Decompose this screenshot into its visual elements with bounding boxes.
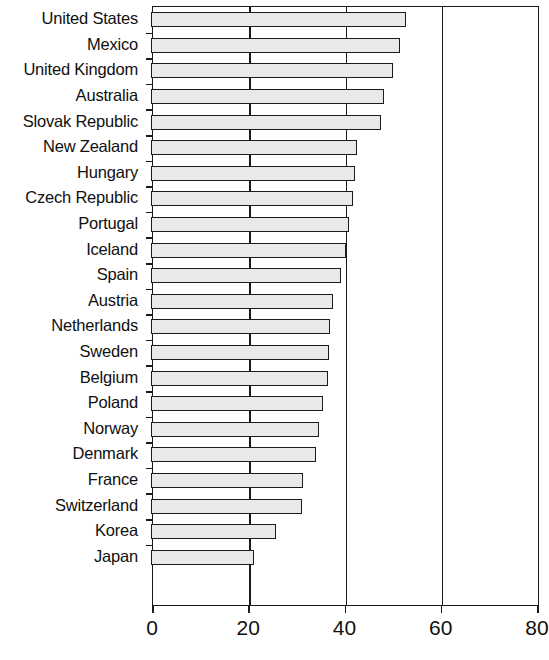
bar-row	[153, 493, 538, 519]
bar	[151, 499, 302, 514]
x-axis-tick-label: 20	[237, 616, 260, 640]
category-label: Australia	[0, 83, 146, 109]
category-tick	[146, 212, 153, 214]
bar	[151, 396, 323, 411]
category-tick	[146, 417, 153, 419]
x-axis-tick-label: 0	[146, 616, 158, 640]
bar	[151, 473, 303, 488]
bar	[151, 38, 400, 53]
category-label: Mexico	[0, 32, 146, 58]
bar-row	[153, 212, 538, 238]
x-axis-tick-marks	[152, 605, 537, 615]
bar	[151, 447, 316, 462]
bar	[151, 345, 329, 360]
x-axis-tick	[152, 605, 154, 613]
category-tick	[146, 135, 153, 137]
category-label: Hungary	[0, 160, 146, 186]
x-axis-tick-label: 40	[333, 616, 356, 640]
bar	[151, 166, 355, 181]
bar-row	[153, 442, 538, 468]
category-label: New Zealand	[0, 134, 146, 160]
category-tick	[146, 289, 153, 291]
plot-area	[152, 6, 539, 606]
category-tick	[146, 58, 153, 60]
bar	[151, 12, 406, 27]
bar-row	[153, 391, 538, 417]
bar	[151, 422, 319, 437]
bar-row	[153, 365, 538, 391]
x-axis-tick-label: 60	[429, 616, 452, 640]
bar	[151, 115, 381, 130]
bars-layer	[153, 7, 538, 605]
category-label: Poland	[0, 390, 146, 416]
category-tick	[146, 442, 153, 444]
category-tick	[146, 340, 153, 342]
category-label: Belgium	[0, 364, 146, 390]
bar-row	[153, 237, 538, 263]
bar	[151, 140, 357, 155]
category-label: Portugal	[0, 211, 146, 237]
bar-row	[153, 58, 538, 84]
x-axis-tick	[441, 605, 443, 613]
bar	[151, 191, 353, 206]
category-tick	[146, 263, 153, 265]
category-tick	[146, 186, 153, 188]
bar-row	[153, 519, 538, 545]
category-tick	[146, 314, 153, 316]
category-label: Czech Republic	[0, 185, 146, 211]
category-tick	[146, 391, 153, 393]
category-label: United Kingdom	[0, 57, 146, 83]
bar-row	[153, 340, 538, 366]
x-axis-tick-label: 80	[525, 616, 548, 640]
category-label: Austria	[0, 288, 146, 314]
category-label: Iceland	[0, 236, 146, 262]
bar	[151, 89, 384, 104]
category-tick	[146, 468, 153, 470]
bar	[151, 524, 276, 539]
bar-row	[153, 544, 538, 570]
category-label: Sweden	[0, 339, 146, 365]
category-tick	[146, 237, 153, 239]
category-tick	[146, 519, 153, 521]
bar-row	[153, 135, 538, 161]
x-axis-tick	[248, 605, 250, 613]
bar	[151, 294, 333, 309]
x-axis-tick	[537, 605, 539, 613]
bar-row	[153, 161, 538, 187]
category-label: Japan	[0, 543, 146, 569]
bar-row	[153, 84, 538, 110]
category-label: France	[0, 467, 146, 493]
category-tick	[146, 84, 153, 86]
category-label: Denmark	[0, 441, 146, 467]
bar	[151, 268, 340, 283]
bar-row	[153, 186, 538, 212]
category-axis-labels: United StatesMexicoUnited KingdomAustral…	[0, 6, 146, 569]
bar-row	[153, 417, 538, 443]
bar-row	[153, 7, 538, 33]
bar	[151, 63, 393, 78]
category-tick	[146, 493, 153, 495]
bar	[151, 371, 328, 386]
x-axis-tick	[345, 605, 347, 613]
category-label: Switzerland	[0, 492, 146, 518]
bar	[151, 243, 345, 258]
category-label: Netherlands	[0, 313, 146, 339]
category-label: Spain	[0, 262, 146, 288]
bar-row	[153, 109, 538, 135]
category-label: Korea	[0, 518, 146, 544]
bar-row	[153, 263, 538, 289]
bar-row	[153, 289, 538, 315]
category-label: Slovak Republic	[0, 108, 146, 134]
category-tick	[146, 545, 153, 547]
bar-row	[153, 33, 538, 59]
x-axis-tick-labels: 020406080	[0, 616, 548, 650]
bar-row	[153, 468, 538, 494]
category-label: Norway	[0, 416, 146, 442]
bar	[151, 217, 349, 232]
category-tick	[146, 109, 153, 111]
bar	[151, 319, 330, 334]
category-tick	[146, 33, 153, 35]
category-tick	[146, 161, 153, 163]
category-label: United States	[0, 6, 146, 32]
bar-row	[153, 314, 538, 340]
